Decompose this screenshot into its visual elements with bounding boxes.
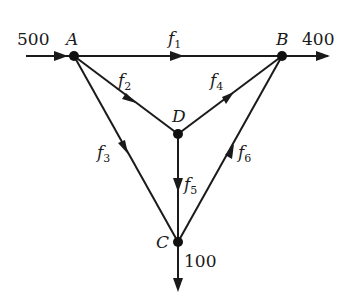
node-a-label: A [64, 29, 78, 49]
outflow-b-value: 400 [302, 29, 334, 49]
edge-f3-label: f3 [95, 142, 110, 165]
arrowhead-icon [173, 178, 183, 192]
edge-f5-label: f5 [182, 174, 197, 197]
node-c-label: C [156, 232, 169, 252]
node-dot-icon [277, 51, 287, 61]
edge-f4: f4 [178, 56, 282, 134]
arrowhead-icon [54, 51, 68, 61]
edge-f1-label: f1 [166, 28, 181, 51]
flow-network-diagram: 500 f1 400 f2 f4 f3 f5 f6 [0, 0, 352, 298]
arrowhead-icon [222, 92, 234, 104]
edge-f2: f2 [74, 56, 178, 134]
outflow-c: 100 [173, 242, 216, 292]
edge-f6-label: f6 [236, 142, 251, 165]
edge-f4-label: f4 [208, 70, 223, 93]
edge-f2-label: f2 [116, 70, 131, 93]
inflow-a-value: 500 [17, 29, 49, 49]
node-dot-icon [69, 51, 79, 61]
node-dot-icon [173, 129, 183, 139]
outflow-b: 400 [282, 29, 334, 61]
arrowhead-icon [118, 140, 128, 154]
node-dot-icon [173, 237, 183, 247]
edge-f5: f5 [173, 134, 197, 242]
arrowhead-icon [316, 51, 330, 61]
node-d: D [171, 106, 186, 139]
outflow-c-value: 100 [184, 251, 216, 271]
arrowhead-icon [173, 278, 183, 292]
node-d-label: D [171, 106, 186, 126]
arrowhead-icon [170, 51, 184, 61]
node-b-label: B [275, 29, 289, 49]
edge-f1: f1 [74, 28, 282, 61]
node-b: B [275, 29, 289, 61]
edge-f6: f6 [178, 56, 282, 242]
